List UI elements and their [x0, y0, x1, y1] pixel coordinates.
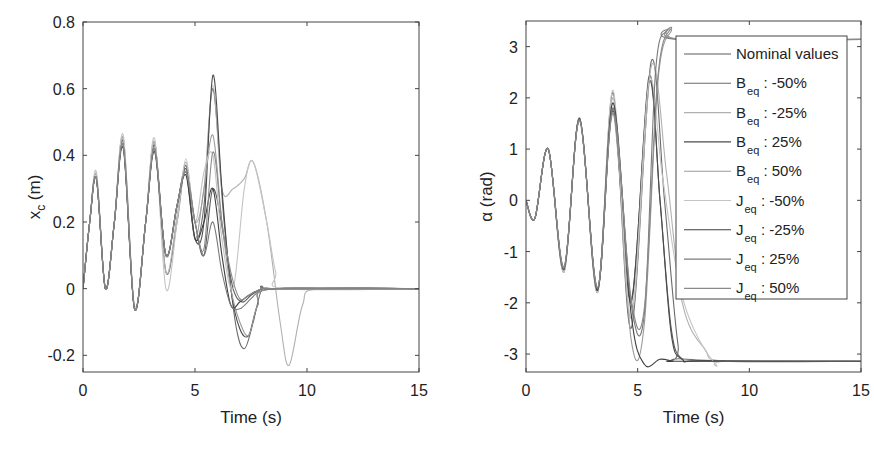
- series-line: [83, 143, 419, 310]
- legend-label-suffix: : 25%: [757, 250, 800, 267]
- y-tick-label: 3: [509, 39, 518, 56]
- legend-label-subscript: eq: [747, 115, 759, 127]
- y-axis-label-unit: (m): [25, 175, 44, 205]
- series-line: [83, 89, 419, 349]
- x-axis-label: Time (s): [220, 408, 282, 427]
- legend-label-main: J: [736, 250, 744, 267]
- series-line: [83, 85, 419, 365]
- x-tick-label: 10: [298, 382, 316, 399]
- x-tick-label: 10: [740, 382, 758, 399]
- legend-label-suffix: : -25%: [757, 221, 805, 238]
- cart-position-plot: 051015-0.200.20.40.60.8Time (s)xc (m): [25, 14, 428, 427]
- legend-label-main: B: [736, 74, 746, 91]
- x-tick-label: 5: [633, 382, 642, 399]
- y-axis-label: xc (m): [25, 175, 48, 220]
- legend-label-suffix: : 50%: [759, 162, 802, 179]
- legend-label-subscript: eq: [747, 173, 759, 185]
- legend-label-suffix: : -50%: [757, 192, 805, 209]
- legend-label-subscript: eq: [745, 261, 757, 273]
- axes-frame: [83, 22, 419, 372]
- y-tick-label: 0.4: [53, 147, 75, 164]
- y-tick-label: 0.8: [53, 14, 75, 31]
- legend-label-subscript: eq: [745, 290, 757, 302]
- legend-label-subscript: eq: [745, 203, 757, 215]
- legend-label-suffix: : -50%: [759, 74, 807, 91]
- legend-label-main: J: [736, 192, 744, 209]
- legend-label-main: Nominal values: [736, 45, 839, 62]
- legend-label-main: J: [736, 221, 744, 238]
- y-tick-label: 0.2: [53, 214, 75, 231]
- y-tick-label: 2: [509, 90, 518, 107]
- y-tick-label: -1: [504, 244, 518, 261]
- legend-label-subscript: eq: [747, 85, 759, 97]
- legend-label-main: B: [736, 133, 746, 150]
- y-tick-label: -0.2: [47, 347, 75, 364]
- y-tick-label: 0: [66, 281, 75, 298]
- legend-label-suffix: : -25%: [759, 104, 807, 121]
- series-line: [83, 140, 419, 310]
- y-tick-label: -2: [504, 295, 518, 312]
- x-axis-label: Time (s): [663, 408, 725, 427]
- legend-label: Nominal values: [736, 45, 839, 62]
- legend-label-subscript: eq: [745, 232, 757, 244]
- series-line: [83, 143, 419, 310]
- y-axis-label: α (rad): [477, 171, 496, 221]
- x-tick-label: 0: [522, 382, 531, 399]
- y-tick-label: 0: [509, 192, 518, 209]
- data-series-group: [83, 75, 419, 365]
- figure: 051015-0.200.20.40.60.8Time (s)xc (m) 05…: [0, 0, 874, 457]
- legend-label-subscript: eq: [747, 144, 759, 156]
- y-tick-label: -3: [504, 346, 518, 363]
- series-line: [83, 134, 419, 308]
- legend-label-suffix: : 25%: [759, 133, 802, 150]
- series-line: [83, 147, 419, 310]
- y-tick-label: 0.6: [53, 81, 75, 98]
- legend-label-main: B: [736, 162, 746, 179]
- x-tick-label: 15: [852, 382, 870, 399]
- x-tick-label: 15: [410, 382, 428, 399]
- legend-label-main: B: [736, 104, 746, 121]
- x-tick-label: 5: [191, 382, 200, 399]
- x-tick-label: 0: [79, 382, 88, 399]
- y-tick-label: 1: [509, 141, 518, 158]
- legend: Nominal valuesBeq : -50%Beq : -25%Beq : …: [676, 36, 847, 302]
- legend-label-suffix: : 50%: [757, 279, 800, 296]
- legend-label-main: J: [736, 279, 744, 296]
